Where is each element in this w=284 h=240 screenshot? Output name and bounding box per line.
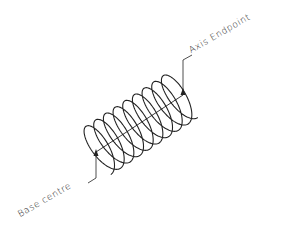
helix-axis-line bbox=[96, 95, 183, 152]
helix-path bbox=[84, 75, 198, 175]
helix-coil bbox=[84, 75, 198, 175]
axis-endpoint-leader bbox=[183, 55, 192, 92]
axis-endpoint-arrow-icon bbox=[181, 88, 186, 95]
base-centre-arrow-icon bbox=[94, 149, 99, 156]
base-centre-leader bbox=[88, 156, 96, 183]
